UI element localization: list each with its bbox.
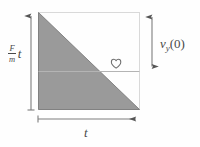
- heart-icon: [111, 59, 120, 68]
- acceleration-time-variable: t: [18, 47, 22, 60]
- time-axis-label: t: [84, 126, 88, 139]
- initial-velocity-label: vy(0): [160, 37, 185, 53]
- acceleration-numerator: F: [8, 44, 15, 53]
- velocity-triangle: [39, 13, 140, 110]
- acceleration-label: F m t: [8, 44, 21, 64]
- initial-velocity-argument: (0): [170, 36, 185, 51]
- diagram-canvas: [0, 0, 200, 147]
- acceleration-denominator: m: [8, 54, 16, 63]
- left-vertical-measure: [28, 16, 35, 110]
- velocity-time-diagram: F m t vy(0) t: [0, 0, 200, 147]
- acceleration-fraction: F m: [8, 44, 16, 64]
- bottom-horizontal-measure: [38, 116, 136, 123]
